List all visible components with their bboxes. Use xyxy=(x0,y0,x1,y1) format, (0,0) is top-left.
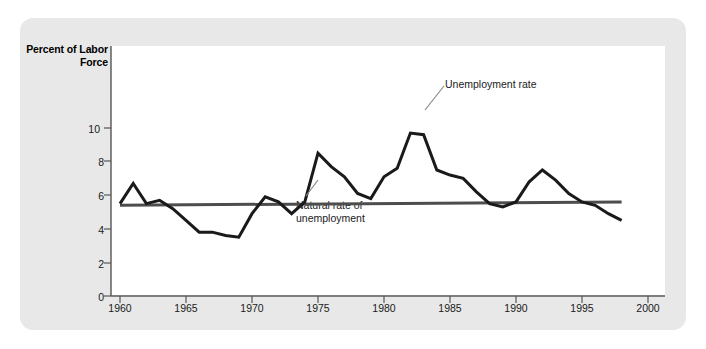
chart-svg xyxy=(0,0,706,349)
natural-rate-line xyxy=(120,202,622,205)
unemployment-rate-line xyxy=(120,133,622,237)
leader-line-unemployment xyxy=(425,86,444,110)
y-tick-marks xyxy=(104,128,111,296)
x-tick-marks xyxy=(120,296,648,303)
chart-screenshot: Percent of Labor Force 0 2 4 6 8 10 1960… xyxy=(0,0,706,349)
